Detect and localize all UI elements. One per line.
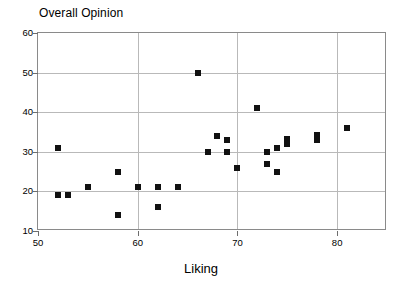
gridline-vertical — [138, 33, 139, 229]
y-tick-label: 60 — [5, 28, 33, 38]
y-tick-label: 30 — [5, 147, 33, 157]
data-point — [274, 169, 280, 175]
data-point — [65, 192, 71, 198]
plot-area: 102030405060 50607080 — [37, 32, 386, 230]
y-tick-mark — [33, 73, 38, 74]
gridline-horizontal — [38, 152, 385, 153]
data-point — [264, 161, 270, 167]
y-tick-mark — [33, 191, 38, 192]
data-point — [155, 204, 161, 210]
data-point — [314, 132, 320, 143]
data-point — [274, 145, 280, 151]
x-axis-label: Liking — [0, 261, 402, 276]
data-point — [205, 149, 211, 155]
data-point — [55, 192, 61, 198]
data-point — [214, 133, 220, 139]
data-point — [224, 137, 230, 143]
gridline-vertical — [337, 33, 338, 229]
gridline-horizontal — [38, 73, 385, 74]
x-tick-label: 60 — [123, 238, 153, 248]
data-point — [55, 145, 61, 151]
y-tick-label: 50 — [5, 68, 33, 78]
x-tick-mark — [38, 231, 39, 236]
data-point — [264, 149, 270, 155]
y-tick-label: 10 — [5, 226, 33, 236]
y-tick-label: 40 — [5, 107, 33, 117]
gridline-horizontal — [38, 112, 385, 113]
x-tick-mark — [237, 231, 238, 236]
data-point — [115, 212, 121, 218]
x-tick-mark — [138, 231, 139, 236]
data-point — [195, 70, 201, 76]
x-tick-label: 50 — [23, 238, 53, 248]
data-point — [254, 105, 260, 111]
gridline-vertical — [237, 33, 238, 229]
scatter-plot-figure: Overall Opinion 102030405060 50607080 Li… — [0, 0, 402, 292]
y-tick-mark — [33, 112, 38, 113]
data-point — [115, 169, 121, 175]
data-point — [85, 184, 91, 190]
x-tick-mark — [337, 231, 338, 236]
data-point — [344, 125, 350, 131]
data-point — [224, 149, 230, 155]
x-tick-label: 70 — [222, 238, 252, 248]
data-point — [155, 184, 161, 190]
data-point — [175, 184, 181, 190]
data-point — [135, 184, 141, 190]
x-tick-label: 80 — [322, 238, 352, 248]
gridline-horizontal — [38, 191, 385, 192]
y-tick-mark — [33, 152, 38, 153]
y-tick-mark — [33, 33, 38, 34]
data-point — [284, 136, 290, 147]
chart-title: Overall Opinion — [39, 6, 123, 20]
data-point — [234, 165, 240, 171]
y-tick-label: 20 — [5, 186, 33, 196]
